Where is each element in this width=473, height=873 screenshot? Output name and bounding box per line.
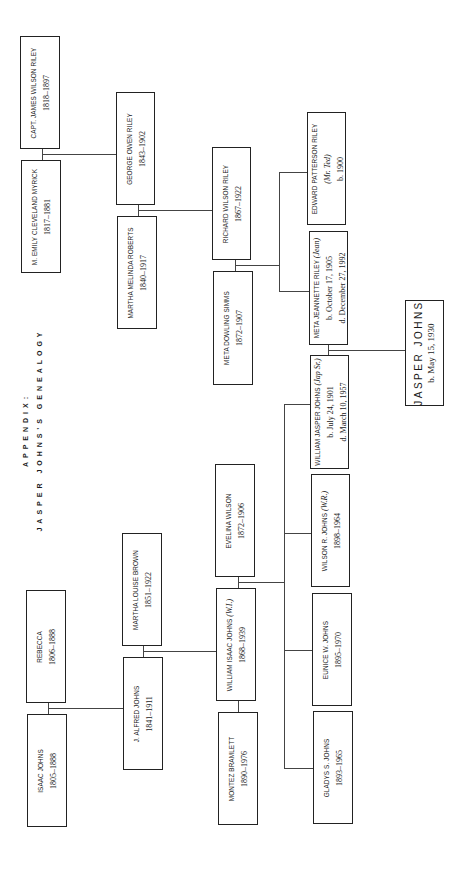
- person-name: EDWARD PATTERSON RILEY: [307, 123, 320, 214]
- person-name: WILSON R. JOHNS: [321, 512, 328, 570]
- person-box-jasper-johns[interactable]: JASPER JOHNSb. May 15, 1930: [405, 300, 444, 406]
- person-nickname: (W.I.): [225, 598, 234, 616]
- person-name: ISAAC JOHNS: [34, 749, 47, 793]
- person-name: WILLIAM ISAAC JOHNS: [226, 618, 233, 691]
- connector: [238, 701, 239, 712]
- person-died: d. December 27, 1992: [335, 238, 348, 338]
- connector: [48, 708, 123, 709]
- person-dates: 1817–1881: [41, 168, 54, 264]
- person-dates: 1840–1917: [137, 227, 150, 318]
- person-nickname: (Jean): [311, 238, 320, 258]
- person-name: CAPT. JAMES WILSON RILEY: [27, 47, 40, 138]
- person-box-rebecca[interactable]: REBECCA1806–1888: [26, 590, 66, 703]
- person-box-emily-myrick[interactable]: M. EMILY CLEVELAND MYRICK1817–1881: [21, 160, 61, 273]
- person-box-richard-wilson-riley[interactable]: RICHARD WILSON RILEY1867–1922: [212, 147, 251, 260]
- person-name: RICHARD WILSON RILEY: [219, 164, 232, 242]
- person-box-meta-jeannette-riley[interactable]: META JEANNETTE RILEY (Jean)b. October 17…: [309, 231, 348, 345]
- person-name: GLADYS S. JOHNS: [320, 738, 333, 797]
- person-dates: 1851–1922: [142, 550, 155, 630]
- person-name: EUNICE W. JOHNS: [319, 620, 332, 678]
- person-name: JASPER JOHNS: [412, 300, 425, 406]
- connector: [279, 172, 280, 292]
- connector: [279, 172, 307, 173]
- person-name: M. EMILY CLEVELAND MYRICK: [28, 168, 41, 264]
- person-name: META JEANNETTE RILEY: [312, 260, 319, 338]
- person-nickname: (Jap Sr.): [312, 358, 321, 385]
- person-died: d. March 10, 1957: [336, 358, 349, 465]
- person-dates: 1898–1964: [331, 490, 344, 570]
- person-box-gladys-johns[interactable]: GLADYS S. JOHNS1893–1965: [313, 711, 353, 824]
- person-nickname: (Mr. Ted): [322, 154, 331, 183]
- person-dates: 1895–1970: [332, 620, 345, 678]
- person-box-william-jasper-johns[interactable]: WILLIAM JASPER JOHNS (Jap Sr.)b. July 24…: [310, 355, 349, 469]
- person-box-martha-roberts[interactable]: MARTHA MELINDA ROBERTS1840–1917: [117, 216, 157, 329]
- person-name: MARTHA MELINDA ROBERTS: [124, 227, 137, 318]
- person-box-alfred-johns[interactable]: J. ALFRED JOHNS1841–1911: [123, 657, 163, 770]
- person-box-edward-riley[interactable]: EDWARD PATTERSON RILEY(Mr. Ted)b. 1900: [307, 112, 346, 225]
- person-box-wilson-johns[interactable]: WILSON R. JOHNS (W.R.)1898–1964: [311, 474, 350, 587]
- connector: [284, 404, 310, 405]
- person-box-montez-bramlett[interactable]: MONTEZ BRAMLETT1890–1976: [218, 712, 258, 825]
- person-born: b. July 24, 1901: [323, 358, 336, 465]
- person-dates: 1843–1902: [136, 113, 149, 185]
- title-line-1: APPENDIX:: [19, 328, 33, 531]
- person-dates: b. 1900: [333, 123, 346, 214]
- connector: [143, 651, 216, 652]
- person-box-james-wilson-riley[interactable]: CAPT. JAMES WILSON RILEY1818–1897: [20, 36, 60, 149]
- person-name: REBECCA: [33, 629, 46, 665]
- person-born: b. October 17, 1905: [322, 238, 335, 338]
- connector: [279, 291, 309, 292]
- person-name: MARTHA LOUISE BROWN: [129, 550, 142, 630]
- person-dates: 1805–1888: [47, 749, 60, 793]
- person-dates: 1806–1888: [46, 629, 59, 665]
- connector: [238, 582, 284, 583]
- connector: [284, 768, 313, 769]
- connector: [42, 154, 116, 155]
- person-nickname: (W.R.): [320, 490, 329, 510]
- connector: [235, 265, 279, 266]
- connector: [328, 350, 405, 351]
- person-name: MONTEZ BRAMLETT: [225, 736, 238, 800]
- person-dates: 1872–1906: [235, 493, 248, 548]
- person-name: J. ALFRED JOHNS: [130, 685, 143, 742]
- person-dates: 1872–1907: [233, 291, 246, 365]
- person-box-martha-brown[interactable]: MARTHA LOUISE BROWN1851–1922: [122, 533, 162, 646]
- person-dates: 1893–1965: [333, 738, 346, 797]
- person-born: b. May 15, 1930: [425, 300, 438, 406]
- person-name: EVELINA WILSON: [222, 493, 235, 548]
- person-box-george-owen-riley[interactable]: GEORGE OWEN RILEY1843–1902: [116, 92, 155, 205]
- person-dates: 1818–1897: [40, 47, 53, 138]
- person-box-meta-simms[interactable]: META DOWLING SIMMS1872–1907: [213, 271, 253, 385]
- person-name: WILLIAM JASPER JOHNS: [313, 387, 320, 465]
- connector: [284, 650, 312, 651]
- title-line-2: JASPER JOHNS'S GENEALOGY: [33, 328, 47, 531]
- person-box-evelina-wilson[interactable]: EVELINA WILSON1872–1906: [215, 464, 255, 577]
- person-box-william-isaac-johns[interactable]: WILLIAM ISAAC JOHNS (W.I.)1868–1939: [216, 588, 256, 701]
- person-name: GEORGE OWEN RILEY: [123, 113, 136, 185]
- page-title: APPENDIX: JASPER JOHNS'S GENEALOGY: [19, 328, 47, 531]
- connector: [138, 210, 212, 211]
- person-box-isaac-johns[interactable]: ISAAC JOHNS1805–1888: [27, 714, 67, 827]
- connector: [284, 533, 311, 534]
- person-name: META DOWLING SIMMS: [220, 291, 233, 365]
- person-dates: 1867–1922: [232, 164, 245, 242]
- person-dates: 1868–1939: [236, 598, 249, 690]
- person-dates: 1841–1911: [143, 685, 156, 742]
- connector: [284, 404, 285, 769]
- person-box-eunice-johns[interactable]: EUNICE W. JOHNS1895–1970: [312, 593, 352, 706]
- person-dates: 1890–1976: [238, 736, 251, 800]
